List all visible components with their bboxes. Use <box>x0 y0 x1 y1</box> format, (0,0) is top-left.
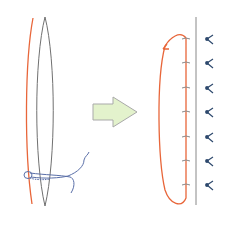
y-branch-marker-icon <box>206 181 213 190</box>
y-branch-marker-icon <box>206 108 213 117</box>
y-branch-marker-icon <box>206 59 213 68</box>
diagram-canvas <box>0 0 241 228</box>
y-markers <box>206 35 213 190</box>
y-branch-marker-icon <box>206 84 213 93</box>
loop-arrowhead-icon <box>163 44 169 49</box>
diagram-svg <box>0 0 241 228</box>
orange-running-loop <box>159 35 186 204</box>
y-branch-marker-icon <box>206 157 213 166</box>
transform-arrow-icon <box>93 97 137 127</box>
left-panel <box>24 17 89 206</box>
blue-thread-loop <box>24 152 89 193</box>
right-panel <box>159 17 213 205</box>
y-branch-marker-icon <box>206 133 213 142</box>
y-branch-marker-icon <box>206 35 213 44</box>
